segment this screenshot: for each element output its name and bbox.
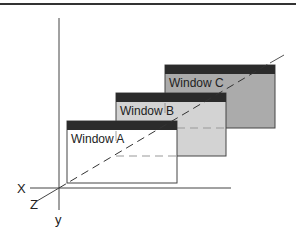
- window-b-label: Window B: [120, 104, 174, 118]
- window-b-titlebar: [116, 93, 226, 102]
- y-axis-label: y: [55, 212, 62, 227]
- window-c-titlebar: [165, 65, 275, 74]
- z-axis-label: Z: [30, 197, 38, 212]
- z-axis-front: [37, 188, 59, 201]
- window-a-titlebar: [67, 121, 177, 130]
- window-c-label: Window C: [169, 76, 224, 90]
- window-stacking-diagram: Window C Window B Window A X Z y: [0, 0, 296, 237]
- x-axis-label: X: [17, 181, 26, 196]
- z-axis-tail: [270, 55, 284, 63]
- top-rule: [0, 3, 296, 5]
